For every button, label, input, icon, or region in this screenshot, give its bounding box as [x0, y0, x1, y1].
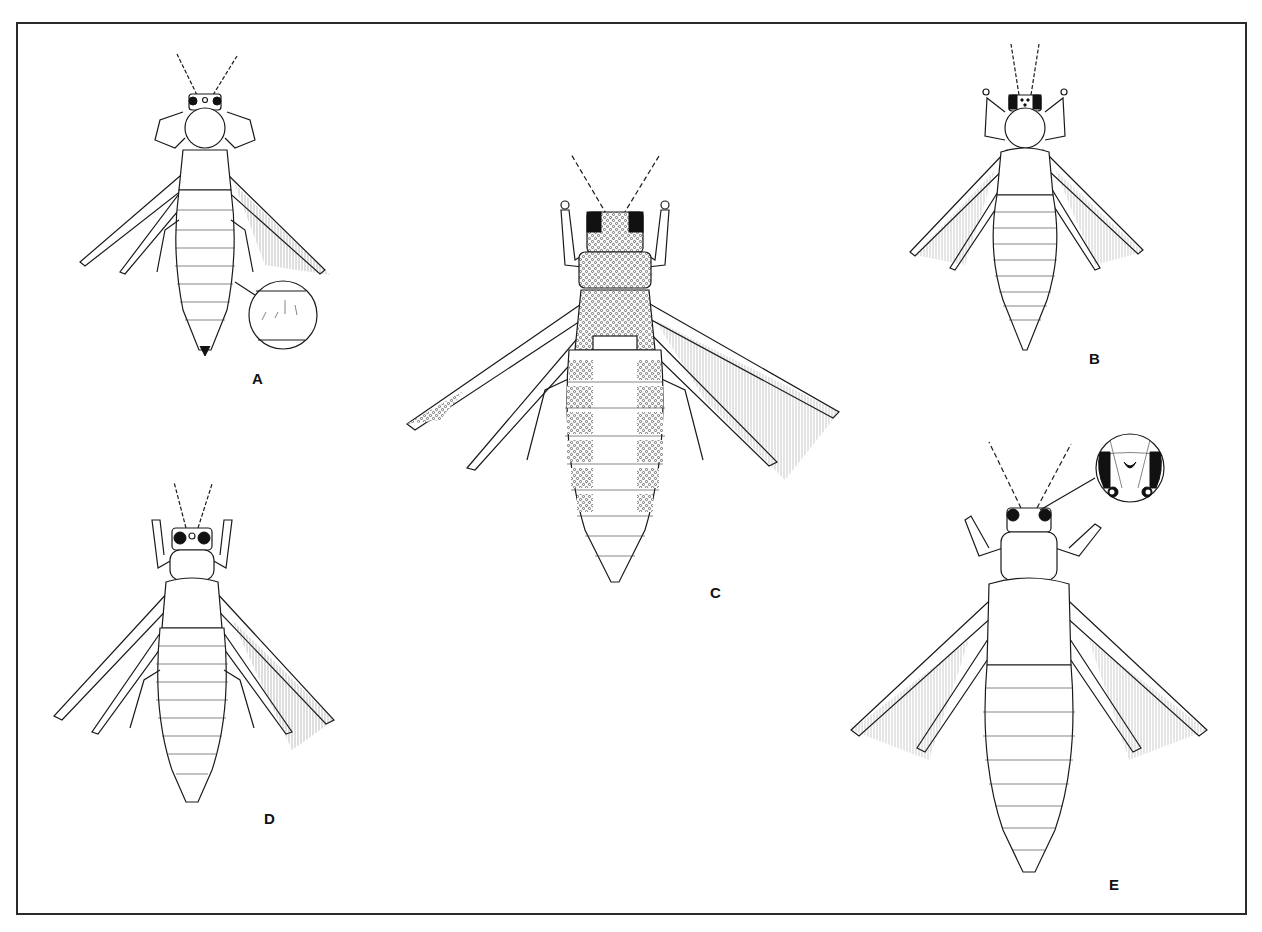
thrips-figure-b [910, 44, 1143, 350]
figure-label-c: C [710, 585, 721, 600]
inset-abdomen-texture-a [235, 281, 317, 349]
figure-label-d: D [264, 811, 275, 826]
inset-head-ocelli-e [1040, 434, 1164, 510]
figure-label-a: A [252, 371, 263, 386]
illustration-plate [0, 0, 1262, 932]
thrips-figure-e [851, 442, 1207, 872]
figure-label-e: E [1109, 877, 1119, 892]
thrips-figure-c [407, 154, 839, 582]
thrips-figure-d [54, 482, 334, 802]
figure-label-b: B [1089, 351, 1100, 366]
